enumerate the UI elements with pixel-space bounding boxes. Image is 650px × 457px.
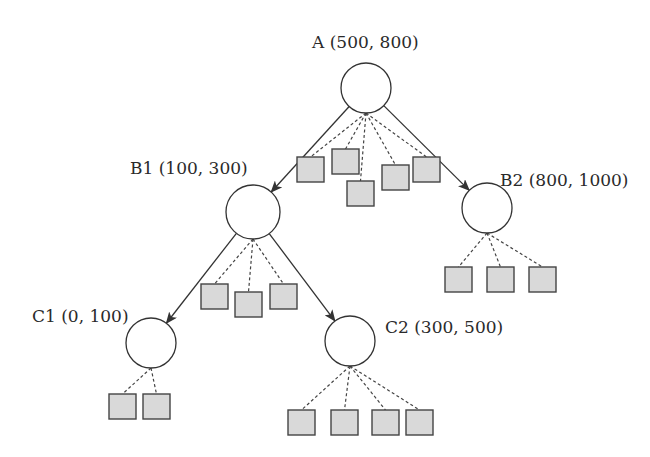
leaf-link [350,366,420,410]
node-label-b1: B1 (100, 300) [130,158,248,178]
leaf-entry-b2-3 [529,267,556,292]
leaf-entry-b1-1 [201,284,228,309]
leaf-link [350,366,386,410]
leaf-entry-a-5 [413,157,440,182]
leaf-link [487,233,501,267]
leaf-entry-b2-1 [445,267,472,292]
leaf-entry-c2-1 [288,410,315,435]
leaf-link [346,113,367,149]
node-label-b2: B2 (800, 1000) [500,170,629,190]
leaf-entry-a-4 [382,165,409,190]
leaf-link [366,113,427,157]
leaf-entry-c1-2 [143,394,170,419]
node-label-c2: C2 (300, 500) [385,317,503,337]
node-c1 [126,318,176,368]
leaf-link [487,233,543,267]
leaf-entry-b1-2 [235,292,262,317]
node-b1 [226,185,280,239]
leaf-link [123,368,152,394]
node-label-a: A (500, 800) [311,32,419,52]
leaf-link [151,368,157,394]
node-label-c1: C1 (0, 100) [32,306,129,326]
leaf-entry-a-2 [332,149,359,174]
node-a [341,63,391,113]
leaf-entry-c1-1 [109,394,136,419]
leaf-link [366,113,396,165]
node-c2 [325,316,375,366]
leaf-entry-a-3 [347,181,374,206]
leaf-link [361,113,367,181]
leaf-link [302,366,351,410]
leaf-link [345,366,351,410]
node-b2 [462,183,512,233]
leaf-link [249,239,254,292]
leaf-entry-c2-2 [331,410,358,435]
leaf-entry-b2-2 [487,267,514,292]
leaf-entry-a-1 [297,157,324,182]
leaf-link [459,233,488,267]
tree-diagram: A (500, 800)B1 (100, 300)B2 (800, 1000)C… [0,0,650,457]
leaf-link [215,239,254,284]
leaf-entry-c2-4 [406,410,433,435]
leaf-entry-c2-3 [372,410,399,435]
leaf-entry-b1-3 [270,284,297,309]
edge-b1-c1 [166,233,236,323]
